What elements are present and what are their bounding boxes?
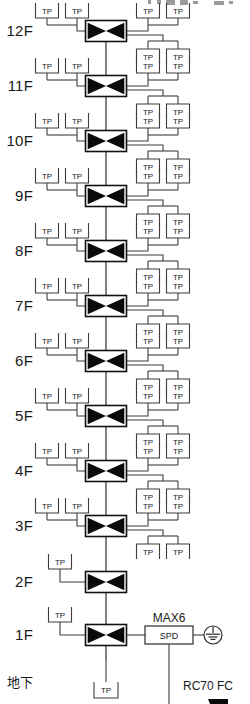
terminal-label: TP	[143, 438, 153, 447]
floor-row-8f: TPTPTPTPTPTP	[36, 223, 190, 284]
distribution-box-11f[interactable]	[86, 76, 127, 97]
terminal-left-a-8F[interactable]: TP	[36, 223, 59, 238]
terminal-right-upper-b-12F[interactable]: TP	[167, 3, 190, 18]
terminal-label: TP	[72, 172, 82, 181]
right-feed	[127, 410, 149, 416]
terminal-label: TP	[143, 172, 153, 181]
terminal-label: TP	[101, 686, 111, 695]
terminal-label: TP	[173, 7, 183, 16]
left-feed	[60, 622, 86, 635]
terminal-left-a-4F[interactable]: TP	[36, 443, 59, 458]
terminal-left-b-7F[interactable]: TP	[66, 278, 89, 293]
left-feed	[77, 25, 86, 31]
terminal-left-a-2F[interactable]: TP	[49, 554, 72, 569]
terminal-left-a-9F[interactable]: TP	[36, 168, 59, 183]
terminal-label: TP	[55, 611, 65, 620]
terminal-right-lower-b-3F[interactable]: TP	[167, 544, 190, 559]
terminal-left-b-12F[interactable]: TP	[66, 3, 89, 18]
distribution-box-10f[interactable]	[86, 131, 127, 152]
terminal-label: TP	[143, 117, 153, 126]
terminal-label: TP	[173, 502, 183, 511]
earth-ground-icon	[204, 626, 222, 644]
left-feed	[77, 300, 86, 306]
right-feed	[127, 520, 149, 526]
terminal-label: TP	[173, 227, 183, 236]
terminal-label: TP	[72, 227, 82, 236]
terminal-left-b-5F[interactable]: TP	[66, 388, 89, 403]
terminal-label: TP	[143, 218, 153, 227]
terminal-label: TP	[173, 172, 183, 181]
terminal-left-a-7F[interactable]: TP	[36, 278, 59, 293]
terminal-label: TP	[173, 53, 183, 62]
terminal-label: TP	[72, 502, 82, 511]
right-lo-feed	[127, 35, 164, 41]
floor-label-7f: 7F	[15, 297, 33, 314]
right-lo-feed	[127, 200, 164, 206]
distribution-box-3f[interactable]	[86, 516, 127, 537]
terminal-label: TP	[143, 502, 153, 511]
left-feed	[77, 520, 86, 526]
terminal-left-b-10F[interactable]: TP	[66, 113, 89, 128]
floor-label-6f: 6F	[15, 352, 33, 369]
floor-rows-layer: TPTPTPTPTPTPTPTPTPTPTPTPTPTPTPTPTPTPTPTP…	[36, 3, 190, 646]
distribution-box-8f[interactable]	[86, 241, 127, 262]
terminal-left-a-11F[interactable]: TP	[36, 58, 59, 73]
distribution-box-5f[interactable]	[86, 406, 127, 427]
terminal-right-lower-a-3F[interactable]: TP	[137, 544, 160, 559]
terminal-right-upper-a-12F[interactable]: TP	[137, 3, 160, 18]
floor-row-10f: TPTPTPTPTPTP	[36, 113, 190, 174]
terminal-label: TP	[173, 337, 183, 346]
right-lo-feed	[127, 530, 164, 536]
right-lo-feed	[127, 365, 164, 371]
terminal-left-a-12F[interactable]: TP	[36, 3, 59, 18]
spd-box[interactable]: SPD	[145, 626, 193, 644]
terminal-basement[interactable]: TP	[94, 682, 118, 698]
terminal-left-b-3F[interactable]: TP	[66, 498, 89, 513]
floor-row-12f: TPTPTPTPTPTP	[36, 3, 190, 64]
terminal-left-b-9F[interactable]: TP	[66, 168, 89, 183]
distribution-box-2f[interactable]	[86, 572, 127, 593]
distribution-box-1f[interactable]	[86, 625, 127, 646]
terminal-label: TP	[72, 282, 82, 291]
right-feed	[127, 245, 149, 251]
terminal-label: TP	[72, 392, 82, 401]
terminal-label: TP	[143, 392, 153, 401]
terminal-label: TP	[72, 62, 82, 71]
terminal-left-b-4F[interactable]: TP	[66, 443, 89, 458]
terminal-label: TP	[173, 108, 183, 117]
floor-label-3f: 3F	[15, 517, 33, 534]
terminal-left-b-11F[interactable]: TP	[66, 58, 89, 73]
distribution-box-12f[interactable]	[86, 21, 127, 42]
terminal-left-a-6F[interactable]: TP	[36, 333, 59, 348]
terminal-label: TP	[143, 7, 153, 16]
terminal-label: TP	[72, 337, 82, 346]
right-feed	[127, 300, 149, 306]
terminal-left-a-10F[interactable]: TP	[36, 113, 59, 128]
spd-annotation: MAX6	[153, 611, 186, 625]
distribution-box-7f[interactable]	[86, 296, 127, 317]
terminal-label: TP	[42, 337, 52, 346]
terminal-left-a-3F[interactable]: TP	[36, 498, 59, 513]
left-feed	[77, 245, 86, 251]
terminal-label: TP	[42, 502, 52, 511]
terminal-left-a-1F[interactable]: TP	[49, 607, 72, 622]
distribution-box-4f[interactable]	[86, 461, 127, 482]
terminal-left-b-8F[interactable]: TP	[66, 223, 89, 238]
floor-row-4f: TPTPTPTPTPTP	[36, 443, 190, 504]
terminal-label: TP	[42, 227, 52, 236]
distribution-box-6f[interactable]	[86, 351, 127, 372]
distribution-box-9f[interactable]	[86, 186, 127, 207]
terminal-label: TP	[173, 117, 183, 126]
terminal-label: TP	[173, 548, 183, 557]
terminal-label: TP	[173, 493, 183, 502]
floor-row-6f: TPTPTPTPTPTP	[36, 333, 190, 394]
floor-labels-layer: 12F11F10F9F8F7F6F5F4F3F2F1F	[7, 22, 33, 643]
left-feed	[77, 465, 86, 471]
riser-diagram-canvas: TPTPTPTPTPTPTPTPTPTPTPTPTPTPTPTPTPTPTPTP…	[0, 0, 250, 704]
floor-label-4f: 4F	[15, 462, 33, 479]
terminal-left-a-5F[interactable]: TP	[36, 388, 59, 403]
floor-label-12f: 12F	[7, 22, 33, 39]
riser-diagram: TPTPTPTPTPTPTPTPTPTPTPTPTPTPTPTPTPTPTPTP…	[0, 0, 250, 704]
terminal-left-b-6F[interactable]: TP	[66, 333, 89, 348]
cropped-top-text	[148, 0, 233, 5]
